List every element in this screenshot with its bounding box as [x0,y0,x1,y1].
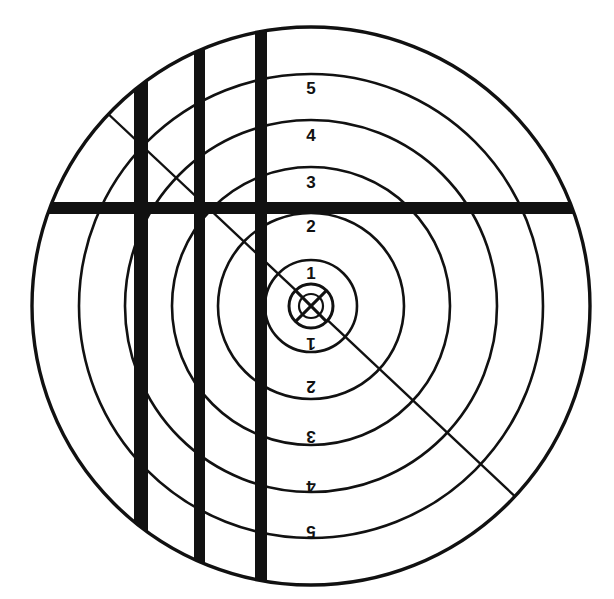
ring-label-lower-1: 1 [306,334,315,353]
bullseye [289,284,333,328]
ring-label-lower-4: 4 [306,477,316,496]
ring-label-lower-5: 5 [306,522,315,541]
target-figure: 5432112345 [0,0,614,599]
vertical-bar-middle [194,0,205,599]
ring-label-lower-2: 2 [306,377,315,396]
ring-label-lower-3: 3 [306,427,315,446]
ring-label-upper-1: 1 [306,264,315,283]
ring-label-upper-3: 3 [306,173,315,192]
ring-label-upper-5: 5 [306,79,315,98]
vertical-bar-left [134,0,148,599]
ring-label-upper-2: 2 [306,217,315,236]
vertical-bar-right [255,0,267,599]
target-canvas: 5432112345 [0,0,614,599]
ring-label-upper-4: 4 [306,126,316,145]
horizontal-bar [0,202,614,214]
